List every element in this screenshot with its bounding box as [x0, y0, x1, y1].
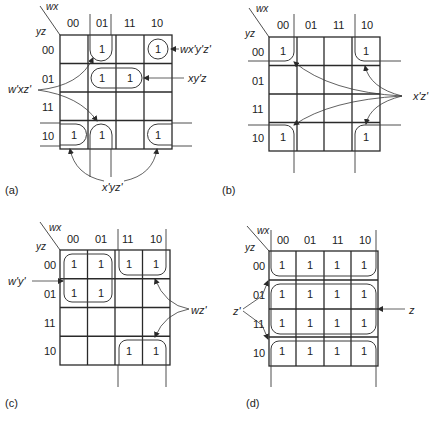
cell-one: 1: [363, 131, 369, 143]
cell-one: 1: [279, 259, 285, 271]
col-label: 10: [359, 234, 371, 246]
row-label: 01: [253, 289, 265, 301]
col-label: 11: [124, 17, 135, 29]
col-label: 00: [277, 234, 289, 246]
cell-one: 1: [98, 258, 104, 270]
cell-one: 1: [279, 288, 285, 300]
cell-one: 1: [127, 72, 133, 84]
col-label: 00: [277, 19, 289, 31]
row-label: 11: [44, 317, 55, 329]
cell-one: 1: [99, 72, 105, 84]
col-label: 01: [304, 234, 316, 246]
cell-one: 1: [279, 317, 285, 329]
cell-one: 1: [99, 129, 105, 141]
cell-one: 1: [280, 131, 286, 143]
row-label: 11: [42, 101, 53, 113]
cell-one: 1: [307, 345, 313, 357]
cell-one: 1: [361, 259, 367, 271]
row-label: 00: [253, 260, 265, 272]
col-label: 11: [122, 233, 133, 245]
cell-one: 1: [126, 258, 132, 270]
col-label: 01: [95, 233, 107, 245]
cell-one: 1: [153, 345, 159, 357]
col-label: 00: [67, 233, 79, 245]
cell-one: 1: [307, 259, 313, 271]
term-label: z: [408, 304, 415, 316]
term-label: w'xz': [8, 83, 32, 95]
row-label: 00: [252, 46, 264, 58]
cell-one: 1: [361, 288, 367, 300]
cell-one: 1: [99, 43, 105, 55]
term-label: xy'z: [187, 72, 207, 84]
col-label: 10: [150, 233, 162, 245]
term-label: x'z': [412, 90, 429, 102]
row-label: 10: [44, 345, 56, 357]
term-label: z': [232, 305, 242, 317]
cell-one: 1: [71, 258, 77, 270]
term-label: x'yz': [101, 181, 124, 193]
row-label: 00: [42, 44, 54, 56]
kmap-figure: wx yz 00 01 11 10 00 01 11 10 1 1 1 1 1 …: [0, 0, 434, 423]
row-var-label: yz: [244, 242, 255, 253]
row-label: 01: [252, 75, 264, 87]
row-label: 01: [44, 288, 56, 300]
col-label: 01: [305, 19, 317, 31]
kmap-b: wx yz 00 01 11 10 00 01 11 10 1 1 1 1 x'…: [222, 3, 429, 196]
cell-one: 1: [334, 345, 340, 357]
cell-one: 1: [126, 345, 132, 357]
row-var-label: yz: [244, 28, 255, 39]
kmap-d: wx yz 00 01 11 10 00 01 11 10 1 1 1 1 1 …: [232, 225, 415, 409]
cell-one: 1: [155, 43, 161, 55]
col-label: 11: [332, 234, 343, 246]
col-label: 10: [361, 19, 373, 31]
kmap-a: wx yz 00 01 11 10 00 01 11 10 1 1 1 1 1 …: [5, 1, 212, 196]
row-label: 10: [253, 347, 265, 359]
cell-one: 1: [307, 317, 313, 329]
caption: (c): [5, 397, 18, 409]
row-label: 01: [42, 73, 54, 85]
row-label: 10: [42, 130, 54, 142]
row-label: 11: [252, 103, 263, 115]
cell-one: 1: [280, 45, 286, 57]
cell-one: 1: [361, 345, 367, 357]
cell-one: 1: [307, 288, 313, 300]
col-label: 11: [333, 19, 344, 31]
caption: (d): [246, 397, 259, 409]
col-label: 10: [151, 17, 163, 29]
col-label: 00: [67, 17, 79, 29]
cell-one: 1: [334, 259, 340, 271]
caption: (a): [5, 184, 18, 196]
cell-one: 1: [71, 287, 77, 299]
col-var-label: wx: [46, 1, 59, 12]
row-var-label: yz: [35, 26, 46, 37]
cell-one: 1: [98, 287, 104, 299]
term-label: wx'y'z': [180, 43, 212, 55]
caption: (b): [222, 184, 235, 196]
term-label: w'y': [8, 275, 27, 287]
row-label: 00: [44, 259, 56, 271]
term-label: wz': [191, 304, 207, 316]
row-var-label: yz: [35, 241, 46, 252]
cell-one: 1: [334, 317, 340, 329]
cell-one: 1: [153, 258, 159, 270]
col-label: 01: [96, 17, 108, 29]
cell-one: 1: [363, 45, 369, 57]
cell-one: 1: [155, 129, 161, 141]
row-label: 10: [252, 132, 264, 144]
kmap-c: wx yz 00 01 11 10 00 01 11 10 1 1 1 1 1 …: [5, 222, 207, 409]
col-var-label: wx: [256, 3, 269, 14]
col-var-label: wx: [257, 225, 270, 236]
cell-one: 1: [279, 345, 285, 357]
cell-one: 1: [361, 317, 367, 329]
col-var-label: wx: [49, 222, 62, 233]
cell-one: 1: [334, 288, 340, 300]
cell-one: 1: [71, 129, 77, 141]
